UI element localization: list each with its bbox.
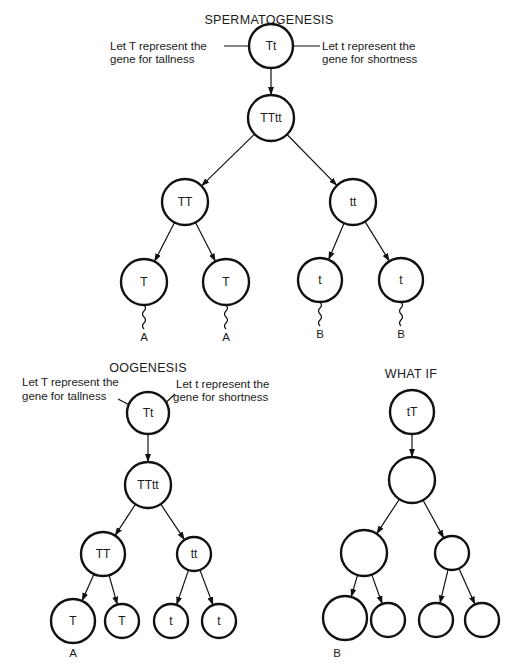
genotype-label: tt <box>191 547 198 561</box>
genotype-label: TT <box>178 195 193 209</box>
division-arrow <box>287 134 337 185</box>
cell-node <box>419 603 453 637</box>
cell-node: TTtt <box>125 462 171 508</box>
division-arrow <box>115 504 135 535</box>
sperm-tail-icon <box>319 302 322 326</box>
genotype-label: tT <box>407 405 418 419</box>
division-arrow <box>202 134 255 186</box>
cell-node: TA <box>121 259 167 343</box>
note-left-line1: Let T represent the <box>22 376 119 388</box>
note-left-line1: Let T represent the <box>110 40 207 52</box>
cell-circle <box>341 530 387 576</box>
genotype-label: Tt <box>266 39 277 53</box>
panel-title: OOGENESIS <box>109 361 187 375</box>
panel-title: WHAT IF <box>385 367 437 381</box>
cell-node: t <box>202 604 236 638</box>
sperm-label: B <box>316 328 324 340</box>
cell-node <box>465 603 499 637</box>
cell-node: tT <box>390 390 434 434</box>
panel-spermatogenesis: SPERMATOGENESIS Let T represent the gene… <box>110 13 423 343</box>
cell-circle <box>371 603 405 637</box>
panel-label: B <box>333 647 341 659</box>
genotype-label: T <box>222 275 230 289</box>
division-arrow <box>365 222 389 261</box>
cell-circle <box>419 603 453 637</box>
division-arrow <box>155 222 175 261</box>
sperm-tail-icon <box>143 305 146 329</box>
cell-circle <box>435 536 469 570</box>
cell-node <box>371 603 405 637</box>
panel-what-if: WHAT IF tT B <box>323 367 499 659</box>
note-right-line1: Let t represent the <box>322 40 415 52</box>
genotype-label: TT <box>96 547 111 561</box>
sperm-tail-icon <box>225 305 228 329</box>
sperm-label: B <box>397 328 405 340</box>
genotype-label: T <box>140 275 148 289</box>
division-arrow <box>161 504 185 539</box>
sperm-label: A <box>222 331 230 343</box>
cell-node: tt <box>177 537 211 571</box>
panel-label: A <box>69 647 77 659</box>
cell-node: Tt <box>127 392 169 434</box>
meiosis-diagram: SPERMATOGENESIS Let T represent the gene… <box>0 0 519 672</box>
division-arrow <box>195 222 215 261</box>
division-arrow <box>459 569 475 605</box>
cell-node: TT <box>162 179 208 225</box>
cell-circle <box>465 603 499 637</box>
cell-node: t <box>154 604 188 638</box>
cell-node <box>341 530 387 576</box>
note-left-line2: gene for tallness <box>110 53 195 65</box>
cell-node: Tt <box>249 24 293 68</box>
division-arrow <box>329 223 344 259</box>
note-left-line2: gene for tallness <box>22 390 107 402</box>
division-arrow <box>372 575 382 604</box>
cell-node: TT <box>81 532 125 576</box>
cell-node: TA <box>203 259 249 343</box>
panel-oogenesis: OOGENESIS Let T represent the gene for t… <box>22 361 269 659</box>
division-arrow <box>177 570 189 604</box>
division-arrow <box>377 499 399 533</box>
cell-node: tB <box>379 258 423 340</box>
genotype-label: T <box>118 614 126 628</box>
division-arrow <box>82 574 94 600</box>
note-right-line1: Let t represent the <box>176 378 269 390</box>
genotype-label: tt <box>350 195 357 209</box>
cell-node: tt <box>330 179 376 225</box>
division-arrow <box>440 570 448 603</box>
cell-node: tB <box>298 258 342 340</box>
division-arrow <box>351 575 357 596</box>
cell-node <box>389 457 435 503</box>
division-arrow <box>200 570 213 605</box>
cell-node: TTtt <box>248 95 294 141</box>
sperm-label: A <box>140 331 148 343</box>
genotype-label: TTtt <box>137 478 159 492</box>
cell-circle <box>389 457 435 503</box>
cell-node: T <box>51 599 95 643</box>
note-right-line2: gene for shortness <box>322 53 418 65</box>
cell-circle <box>323 596 367 640</box>
genotype-label: T <box>69 614 77 628</box>
genotype-label: TTtt <box>260 111 282 125</box>
division-arrow <box>423 500 444 537</box>
sperm-tail-icon <box>400 302 403 326</box>
cell-node <box>323 596 367 640</box>
cell-node: T <box>105 604 139 638</box>
genotype-label: Tt <box>143 406 154 420</box>
division-arrow <box>109 575 117 604</box>
cell-node <box>435 536 469 570</box>
note-right-line2: gene for shortness <box>173 391 269 403</box>
